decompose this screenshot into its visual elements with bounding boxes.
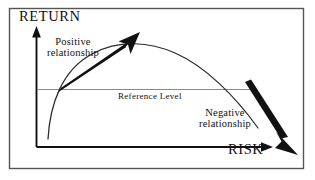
negative-relationship-line2: relationship [199, 118, 251, 129]
reference-level-label: Reference Level [118, 92, 182, 102]
positive-relationship-line1: Positive [47, 36, 99, 47]
y-axis-label: RETURN [19, 9, 81, 25]
negative-relationship-line1: Negative [199, 107, 251, 118]
figure-canvas [0, 0, 315, 180]
x-axis-label: RISK [228, 142, 263, 158]
risk-return-figure: RETURN RISK Positive relationship Negati… [0, 0, 315, 180]
negative-relationship-label: Negative relationship [199, 107, 251, 130]
positive-relationship-line2: relationship [47, 47, 99, 58]
positive-relationship-label: Positive relationship [47, 36, 99, 59]
